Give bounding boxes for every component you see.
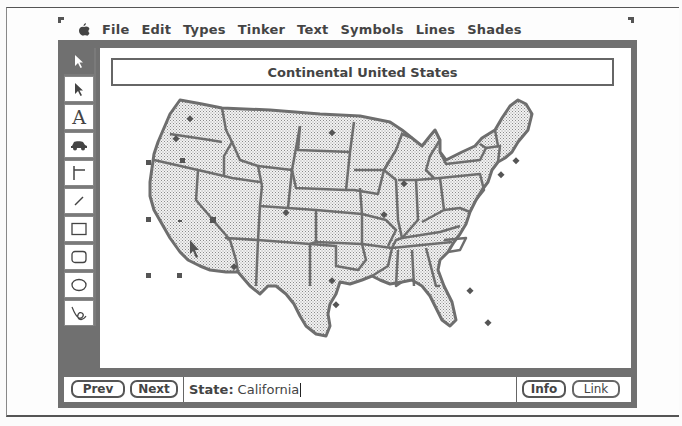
us-outline [150, 100, 532, 336]
tool-palette: A [64, 48, 96, 326]
text-caret [300, 383, 301, 397]
capital-marker-fl-1 [466, 287, 473, 294]
tool-oval[interactable] [64, 272, 94, 298]
menu-file[interactable]: File [102, 22, 129, 37]
state-field-label: State: [189, 382, 234, 397]
capital-marker-ma [512, 157, 519, 164]
arrow-icon [72, 53, 86, 69]
map-title-box[interactable]: Continental United States [111, 58, 614, 86]
menu-bar: File Edit Types Tinker Text Symbols Line… [78, 20, 534, 38]
state-field[interactable]: State: California [189, 381, 301, 398]
bottom-bar: Prev Next State: California Info Link [64, 377, 631, 402]
tool-text[interactable]: A [64, 104, 94, 130]
capital-marker-tx-2 [332, 301, 339, 308]
menu-types[interactable]: Types [183, 22, 226, 37]
menu-edit[interactable]: Edit [141, 22, 171, 37]
selection-handle-top-left[interactable] [146, 160, 151, 165]
text-icon: A [72, 108, 86, 127]
tool-freehand[interactable] [64, 300, 94, 326]
divider [183, 377, 184, 402]
car-icon [70, 139, 88, 151]
oval-icon [70, 277, 88, 293]
menu-shades[interactable]: Shades [467, 22, 521, 37]
apple-icon[interactable] [78, 23, 90, 36]
menu-text[interactable]: Text [297, 22, 328, 37]
screen-corner-top-right [628, 17, 634, 23]
us-map[interactable] [140, 90, 540, 350]
pointer-icon [72, 81, 86, 97]
rectangle-icon [70, 221, 88, 237]
capital-marker-nv [210, 217, 216, 223]
capital-marker-or-2 [180, 158, 185, 163]
tool-pointer[interactable] [64, 76, 94, 102]
divider [516, 377, 517, 402]
menu-symbols[interactable]: Symbols [340, 22, 403, 37]
tool-connector-line[interactable] [64, 160, 94, 186]
tool-line[interactable] [64, 188, 94, 214]
selection-handle-bottom-left[interactable] [146, 273, 151, 278]
capital-marker-fl-2 [484, 319, 491, 326]
link-button[interactable]: Link [572, 380, 620, 398]
screen-corner-top-left [58, 17, 64, 23]
tool-rectangle[interactable] [64, 216, 94, 242]
menu-lines[interactable]: Lines [416, 22, 456, 37]
connector-icon [71, 164, 87, 182]
tool-select-arrow[interactable] [64, 48, 94, 74]
next-button[interactable]: Next [130, 380, 178, 398]
prev-button[interactable]: Prev [71, 380, 125, 398]
menu-tinker[interactable]: Tinker [238, 22, 285, 37]
tool-rounded-rectangle[interactable] [64, 244, 94, 270]
rounded-rectangle-icon [70, 249, 88, 265]
capital-marker-ca [178, 220, 182, 222]
tool-car-symbol[interactable] [64, 132, 94, 158]
freehand-icon [70, 304, 88, 322]
info-button[interactable]: Info [522, 380, 566, 398]
map-title: Continental United States [268, 65, 458, 80]
state-field-value[interactable]: California [238, 382, 300, 397]
capital-marker-ny [497, 171, 504, 178]
line-icon [71, 193, 87, 209]
selection-handle-bottom-middle[interactable] [177, 273, 182, 278]
selection-handle-middle-left[interactable] [146, 217, 151, 222]
